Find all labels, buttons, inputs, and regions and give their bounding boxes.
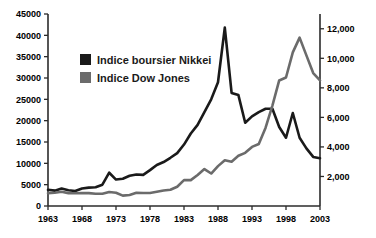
x-axis-group: 196319681973197819831988199319982003 [38, 206, 330, 224]
right-tick-label: 6,000 [327, 113, 350, 123]
left-tick-label: 35000 [16, 52, 41, 62]
right-tick-label: 10,000 [327, 54, 355, 64]
stock-index-line-chart: 0500010000150002000025000300003500040000… [0, 0, 376, 238]
x-tick-label: 1998 [276, 214, 296, 224]
chart-legend: Indice boursier NikkeiIndice Dow Jones [80, 54, 211, 84]
x-axis-tick-labels: 196319681973197819831988199319982003 [38, 214, 330, 224]
x-tick-label: 2003 [310, 214, 330, 224]
x-tick-label: 1968 [72, 214, 92, 224]
right-axis-tick-labels: 2,0004,0006,0008,00010,00012,000 [327, 24, 355, 182]
x-tick-label: 1993 [242, 214, 262, 224]
x-tick-label: 1963 [38, 214, 58, 224]
right-tick-label: 2,000 [327, 172, 350, 182]
left-axis-tick-labels: 0500010000150002000025000300003500040000… [16, 9, 41, 211]
left-tick-label: 5000 [21, 180, 41, 190]
left-tick-label: 0 [36, 201, 41, 211]
x-tick-label: 1973 [106, 214, 126, 224]
x-tick-label: 1983 [174, 214, 194, 224]
right-tick-label: 8,000 [327, 83, 350, 93]
series-layer [48, 28, 320, 196]
right-tick-label: 4,000 [327, 142, 350, 152]
left-tick-label: 45000 [16, 9, 41, 19]
legend-label: Indice boursier Nikkei [97, 54, 211, 66]
x-tick-label: 1978 [140, 214, 160, 224]
right-axis-group: 2,0004,0006,0008,00010,00012,000 [320, 14, 355, 206]
left-tick-label: 25000 [16, 95, 41, 105]
left-tick-label: 10000 [16, 159, 41, 169]
left-tick-label: 20000 [16, 116, 41, 126]
legend-swatch [80, 72, 91, 83]
left-tick-label: 40000 [16, 31, 41, 41]
legend-label: Indice Dow Jones [97, 72, 190, 84]
chart-container: 0500010000150002000025000300003500040000… [0, 0, 376, 238]
left-axis-group: 0500010000150002000025000300003500040000… [16, 9, 48, 211]
left-tick-label: 15000 [16, 137, 41, 147]
series-line-indice-boursier-nikkei [48, 28, 320, 191]
legend-swatch [80, 54, 91, 65]
x-tick-label: 1988 [208, 214, 228, 224]
right-tick-label: 12,000 [327, 24, 355, 34]
left-tick-label: 30000 [16, 73, 41, 83]
